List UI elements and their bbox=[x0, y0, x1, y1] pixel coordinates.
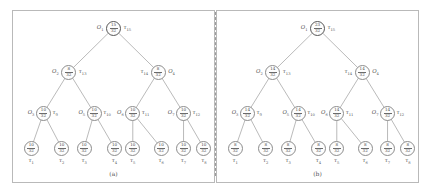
leaf-label-a-3-subscript: 3 bbox=[84, 161, 86, 165]
fraction-numerator: 15 bbox=[111, 23, 116, 27]
fraction-denominator: 32 bbox=[92, 114, 97, 118]
fraction-numerator: 10 bbox=[130, 143, 135, 147]
tau-a-9-subscript: 9 bbox=[55, 113, 57, 117]
node-fraction: 1032 bbox=[27, 143, 35, 153]
leaf-b-L4: 832 bbox=[311, 141, 326, 156]
label-a-O1: O1 bbox=[97, 24, 104, 32]
leaf-label-a-2: τ2 bbox=[59, 157, 64, 165]
label-a-O3-subscript: 3 bbox=[32, 113, 34, 117]
leaf-label-b-2-subscript: 2 bbox=[266, 161, 268, 165]
fraction-denominator: 32 bbox=[385, 149, 390, 153]
node-b-O4: 1432 bbox=[355, 65, 370, 80]
fraction-numerator: 10 bbox=[112, 143, 117, 147]
tau-b-14: τ14 bbox=[344, 68, 352, 76]
tau-b-15: τ15 bbox=[328, 24, 336, 32]
label-a-O7: O7 bbox=[168, 109, 175, 117]
label-b-O4-subscript: 4 bbox=[377, 72, 379, 76]
fraction-numerator: 14 bbox=[360, 67, 365, 71]
tau-b-12-subscript: 12 bbox=[400, 113, 405, 117]
fraction-numerator: 8 bbox=[68, 67, 71, 71]
fraction-denominator: 32 bbox=[315, 29, 320, 33]
node-fraction: 832 bbox=[333, 143, 341, 153]
fraction-denominator: 32 bbox=[130, 114, 135, 118]
fraction-denominator: 32 bbox=[159, 149, 164, 153]
tau-b-14-subscript: 14 bbox=[347, 72, 352, 76]
label-a-O6-subscript: 6 bbox=[121, 113, 123, 117]
label-a-O5-subscript: 5 bbox=[83, 113, 85, 117]
leaf-label-a-6-subscript: 6 bbox=[162, 161, 164, 165]
leaf-label-a-7-subscript: 7 bbox=[184, 161, 186, 165]
node-fraction: 832 bbox=[154, 67, 162, 77]
leaf-label-a-3: τ3 bbox=[81, 157, 86, 165]
node-fraction: 832 bbox=[262, 143, 270, 153]
leaf-label-b-8-subscript: 8 bbox=[408, 161, 410, 165]
fraction-numerator: 10 bbox=[92, 108, 97, 112]
label-b-O5: O5 bbox=[282, 109, 289, 117]
leaf-label-a-5-subscript: 5 bbox=[133, 161, 135, 165]
tau-a-15: τ15 bbox=[124, 24, 132, 32]
tau-a-12: τ12 bbox=[193, 109, 201, 117]
node-fraction: 1032 bbox=[129, 143, 137, 153]
label-a-O4-subscript: 4 bbox=[173, 72, 175, 76]
tau-b-9-subscript: 9 bbox=[259, 113, 261, 117]
fraction-numerator: 8 bbox=[407, 143, 410, 147]
label-a-O1-subscript: 1 bbox=[101, 28, 103, 32]
label-b-O4: O4 bbox=[372, 68, 379, 76]
fraction-numerator: 14 bbox=[385, 108, 390, 112]
leaf-label-a-6: τ6 bbox=[159, 157, 164, 165]
fraction-denominator: 32 bbox=[296, 114, 301, 118]
tau-a-14: τ14 bbox=[140, 68, 148, 76]
fraction-denominator: 32 bbox=[334, 149, 339, 153]
node-a-O7: 1032 bbox=[176, 106, 191, 121]
fraction-denominator: 32 bbox=[112, 149, 117, 153]
fraction-denominator: 32 bbox=[81, 149, 86, 153]
fraction-denominator: 32 bbox=[29, 149, 34, 153]
label-a-O3: O3 bbox=[28, 109, 35, 117]
node-fraction: 1032 bbox=[180, 143, 188, 153]
leaf-label-a-4-subscript: 4 bbox=[115, 161, 117, 165]
fraction-numerator: 10 bbox=[81, 143, 86, 147]
leaf-label-b-5-subscript: 5 bbox=[337, 161, 339, 165]
node-a-O2: 832 bbox=[61, 65, 76, 80]
node-fraction: 832 bbox=[361, 143, 369, 153]
tau-a-11: τ11 bbox=[142, 109, 150, 117]
leaf-label-a-1: τ1 bbox=[29, 157, 34, 165]
leaf-label-b-7-subscript: 7 bbox=[388, 161, 390, 165]
node-b-O2: 1432 bbox=[265, 65, 280, 80]
label-b-O3: O3 bbox=[232, 109, 239, 117]
leaf-label-b-2: τ2 bbox=[263, 157, 268, 165]
leaf-b-L7: 832 bbox=[380, 141, 395, 156]
tau-a-13: τ13 bbox=[79, 68, 87, 76]
fraction-numerator: 10 bbox=[59, 143, 64, 147]
leaf-b-L5: 832 bbox=[329, 141, 344, 156]
fraction-denominator: 32 bbox=[334, 114, 339, 118]
leaf-label-b-1: τ1 bbox=[233, 157, 238, 165]
tau-b-12: τ12 bbox=[397, 109, 405, 117]
fraction-numerator: 8 bbox=[234, 143, 237, 147]
fraction-denominator: 32 bbox=[245, 114, 250, 118]
leaf-a-L7: 1032 bbox=[176, 141, 191, 156]
node-fraction: 832 bbox=[284, 143, 292, 153]
label-a-O2-subscript: 2 bbox=[56, 72, 58, 76]
node-fraction: 1032 bbox=[157, 143, 165, 153]
node-fraction: 1032 bbox=[90, 108, 98, 118]
fraction-denominator: 32 bbox=[59, 149, 64, 153]
tau-a-15-subscript: 15 bbox=[126, 28, 131, 32]
fraction-denominator: 32 bbox=[270, 73, 275, 77]
leaf-label-b-6: τ6 bbox=[363, 157, 368, 165]
fraction-numerator: 10 bbox=[41, 108, 46, 112]
node-fraction: 1032 bbox=[111, 143, 119, 153]
node-b-O1: 2332 bbox=[310, 21, 325, 36]
node-a-O1: 1532 bbox=[106, 21, 121, 36]
label-b-O7: O7 bbox=[372, 109, 379, 117]
leaf-label-b-4-subscript: 4 bbox=[319, 161, 321, 165]
fraction-denominator: 32 bbox=[316, 149, 321, 153]
tau-b-10-subscript: 10 bbox=[310, 113, 315, 117]
fraction-denominator: 32 bbox=[130, 149, 135, 153]
leaf-a-L5: 1032 bbox=[125, 141, 140, 156]
leaf-a-L4: 1032 bbox=[107, 141, 122, 156]
leaf-label-a-4: τ4 bbox=[112, 157, 117, 165]
node-b-O7: 1432 bbox=[380, 106, 395, 121]
tau-a-9: τ9 bbox=[52, 109, 57, 117]
leaf-label-b-5: τ5 bbox=[334, 157, 339, 165]
